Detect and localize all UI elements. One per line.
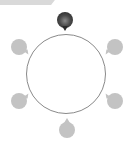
pin-tail [106,93,112,99]
marker-upper-right[interactable] [107,39,123,55]
marker-lower-left[interactable] [11,93,27,109]
selection-ring [26,34,106,114]
pin-tail [23,93,29,99]
pin-tail [106,50,112,56]
map-pin-icon [59,122,75,138]
pin-tail [23,50,29,56]
pin-tail [64,118,70,123]
marker-upper-left[interactable] [11,39,27,55]
header-tab[interactable] [0,0,58,5]
marker-top[interactable] [57,12,73,28]
pin-tail [62,26,68,31]
marker-lower-right[interactable] [107,93,123,109]
marker-bottom[interactable] [59,122,75,138]
